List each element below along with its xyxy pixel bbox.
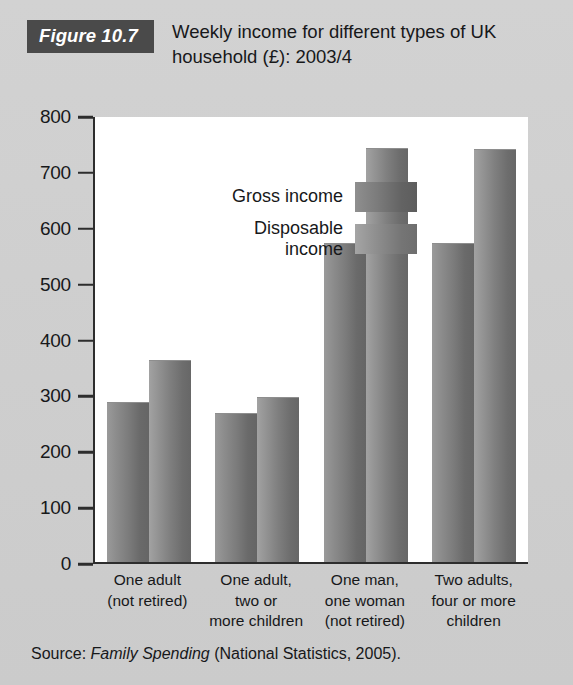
bar-gross-income [324,243,366,562]
y-axis-tick-mark [78,563,93,566]
x-axis-label: One adult, two or more children [202,570,311,632]
source-note: Source: Family Spending (National Statis… [31,645,401,663]
y-axis-tick-label: 800 [40,106,71,128]
legend-swatch-gross-income [355,182,417,212]
y-axis-tick-mark [78,283,93,286]
bar-disposable-income [149,360,191,562]
chart-legend: Gross income Disposable income [117,182,417,266]
x-axis-label: One adult (not retired) [93,570,202,632]
figure-title: Weekly income for different types of UK … [172,20,502,70]
y-axis-tick-label: 600 [40,218,71,240]
x-axis-label: One man, one woman (not retired) [311,570,420,632]
legend-item: Disposable income [117,218,417,260]
y-axis-tick-label: 400 [40,330,71,352]
y-axis-tick-mark [78,228,93,231]
y-axis-tick-label: 0 [61,553,71,575]
figure-page: Figure 10.7 Weekly income for different … [0,0,573,685]
figure-number-badge: Figure 10.7 [27,20,154,53]
y-axis-tick-label: 700 [40,162,71,184]
y-axis-tick-mark [78,451,93,454]
x-axis-label: Two adults, four or more children [419,570,528,632]
plot-area: Gross income Disposable income [93,117,528,564]
legend-item: Gross income [117,182,417,212]
legend-swatch-disposable-income [355,224,417,254]
x-axis-labels: One adult (not retired)One adult, two or… [93,570,528,632]
source-suffix: (National Statistics, 2005). [214,645,401,662]
bar-gross-income [107,402,149,562]
y-axis-tick-label: 100 [40,497,71,519]
y-axis-tick-label: 300 [40,385,71,407]
y-axis-tick-label: 500 [40,274,71,296]
y-axis-tick-mark [78,395,93,398]
y-axis-tick-mark [78,507,93,510]
bar-disposable-income [474,149,516,562]
y-axis-tick-label: 200 [40,441,71,463]
bar-gross-income [215,413,257,562]
bar-disposable-income [257,397,299,562]
y-axis-tick-mark [78,339,93,342]
bar-group [420,117,528,562]
source-prefix: Source: [31,645,86,662]
figure-header: Figure 10.7 Weekly income for different … [27,20,532,80]
legend-label: Gross income [232,186,343,207]
y-axis: 8007006005004003002001000 [0,117,93,567]
source-publication: Family Spending [91,645,210,662]
legend-label: Disposable income [254,218,343,260]
y-axis-tick-mark [78,172,93,175]
bar-gross-income [432,243,474,562]
y-axis-tick-mark [78,116,93,119]
